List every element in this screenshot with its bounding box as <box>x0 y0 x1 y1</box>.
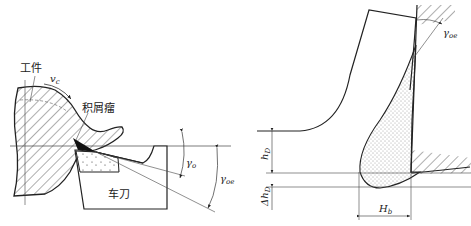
tool-label: 车刀 <box>108 187 130 201</box>
actual-rake-angle-label: γoe <box>220 173 234 186</box>
bue-height-label: Hb <box>378 203 393 216</box>
tool-hatched-region <box>410 5 471 174</box>
actual-rake-label-right: γoe <box>443 27 457 40</box>
delta-thickness-label: ΔhD <box>259 186 272 207</box>
cut-thickness-label: hD <box>259 148 272 160</box>
left-figure: 工件 vc 积屑瘤 车刀 γo γoe <box>10 62 234 212</box>
built-up-edge-right <box>360 45 420 188</box>
velocity-label: vc <box>50 73 60 86</box>
bue-label: 积屑瘤 <box>82 101 115 115</box>
right-figure: γoe hD ΔhD Hb <box>257 5 471 220</box>
rake-angle-label: γo <box>186 157 196 170</box>
diagram-canvas: 工件 vc 积屑瘤 车刀 γo γoe γoe hD ΔhD <box>0 0 471 226</box>
actual-rake-angle-arc <box>208 148 218 208</box>
workpiece-label: 工件 <box>20 62 42 75</box>
tool-insert <box>76 151 119 172</box>
rake-angle-arc <box>180 132 184 178</box>
